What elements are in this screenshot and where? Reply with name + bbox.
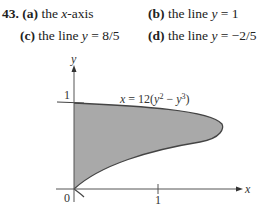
curve-tail (74, 189, 84, 197)
shaded-area (74, 103, 223, 189)
y-equals-1-line (57, 102, 84, 103)
x-axis-label: x (244, 182, 251, 196)
origin-label: 0 (64, 191, 70, 205)
y-axis-arrow-icon (72, 65, 77, 72)
x-tick-label: 1 (155, 193, 161, 207)
y-tick-label: 1 (64, 88, 70, 102)
curve-equation: x = 12(y2 − y3) (119, 92, 190, 106)
y-axis-label: y (70, 52, 77, 66)
x-axis-arrow-icon (236, 187, 243, 192)
region-figure: 1 1 0 x y x = 12(y2 − y3) (0, 0, 266, 214)
